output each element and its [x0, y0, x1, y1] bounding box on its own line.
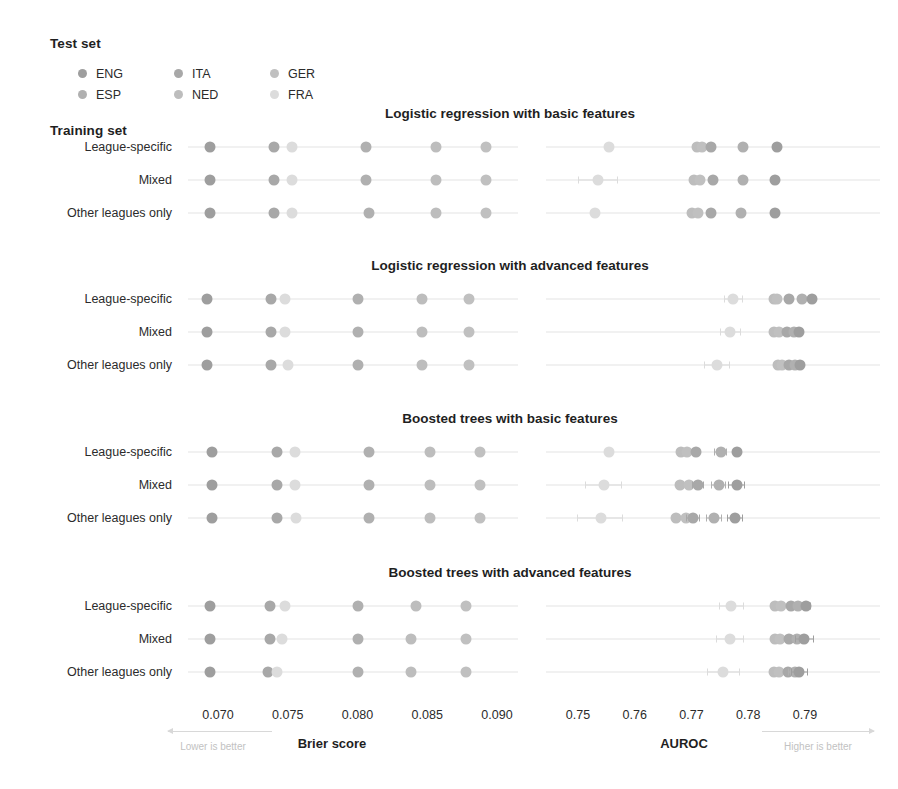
- brier-point-eng[interactable]: [201, 359, 212, 370]
- brier-point-ita[interactable]: [271, 512, 282, 523]
- brier-point-ita[interactable]: [268, 141, 279, 152]
- brier-point-esp[interactable]: [363, 479, 374, 490]
- brier-point-fra[interactable]: [286, 141, 297, 152]
- brier-point-ger[interactable]: [461, 666, 472, 677]
- legend-item-eng[interactable]: ENG: [78, 67, 174, 81]
- brier-point-ned[interactable]: [405, 666, 416, 677]
- auroc-point-esp[interactable]: [709, 512, 720, 523]
- brier-point-fra[interactable]: [279, 600, 290, 611]
- auroc-point-ita[interactable]: [687, 512, 698, 523]
- brier-point-ita[interactable]: [268, 174, 279, 185]
- brier-point-fra[interactable]: [291, 512, 302, 523]
- brier-point-esp[interactable]: [352, 326, 363, 337]
- legend-item-esp[interactable]: ESP: [78, 88, 174, 102]
- auroc-point-fra[interactable]: [604, 141, 615, 152]
- auroc-point-eng[interactable]: [770, 207, 781, 218]
- auroc-point-eng[interactable]: [795, 359, 806, 370]
- brier-point-esp[interactable]: [363, 512, 374, 523]
- auroc-point-ita[interactable]: [784, 293, 795, 304]
- auroc-point-fra[interactable]: [604, 446, 615, 457]
- brier-point-eng[interactable]: [207, 446, 218, 457]
- brier-point-ned[interactable]: [425, 512, 436, 523]
- brier-point-eng[interactable]: [201, 326, 212, 337]
- brier-point-fra[interactable]: [289, 446, 300, 457]
- auroc-point-eng[interactable]: [731, 446, 742, 457]
- brier-point-fra[interactable]: [289, 479, 300, 490]
- auroc-point-ita[interactable]: [708, 174, 719, 185]
- auroc-point-fra[interactable]: [590, 207, 601, 218]
- auroc-point-esp[interactable]: [716, 446, 727, 457]
- brier-point-ger[interactable]: [480, 141, 491, 152]
- brier-point-eng[interactable]: [204, 666, 215, 677]
- auroc-point-fra[interactable]: [718, 666, 729, 677]
- brier-point-esp[interactable]: [352, 666, 363, 677]
- brier-point-fra[interactable]: [279, 326, 290, 337]
- auroc-point-ita[interactable]: [706, 207, 717, 218]
- auroc-point-eng[interactable]: [794, 666, 805, 677]
- brier-point-ita[interactable]: [266, 359, 277, 370]
- brier-point-esp[interactable]: [360, 174, 371, 185]
- auroc-point-ita[interactable]: [693, 479, 704, 490]
- auroc-point-fra[interactable]: [727, 293, 738, 304]
- auroc-point-esp[interactable]: [737, 174, 748, 185]
- brier-point-ned[interactable]: [411, 600, 422, 611]
- brier-point-esp[interactable]: [363, 446, 374, 457]
- auroc-point-esp[interactable]: [713, 479, 724, 490]
- brier-point-fra[interactable]: [282, 359, 293, 370]
- auroc-point-fra[interactable]: [598, 479, 609, 490]
- brier-point-ita[interactable]: [266, 326, 277, 337]
- brier-point-eng[interactable]: [201, 293, 212, 304]
- brier-point-ned[interactable]: [425, 446, 436, 457]
- auroc-point-eng[interactable]: [794, 326, 805, 337]
- brier-point-eng[interactable]: [204, 174, 215, 185]
- brier-point-ned[interactable]: [430, 174, 441, 185]
- brier-point-eng[interactable]: [204, 633, 215, 644]
- brier-point-ned[interactable]: [416, 359, 427, 370]
- auroc-point-ger[interactable]: [693, 207, 704, 218]
- legend-item-ned[interactable]: NED: [174, 88, 270, 102]
- auroc-point-eng[interactable]: [798, 633, 809, 644]
- auroc-point-eng[interactable]: [806, 293, 817, 304]
- brier-point-ita[interactable]: [264, 633, 275, 644]
- brier-point-ita[interactable]: [271, 479, 282, 490]
- auroc-point-esp[interactable]: [736, 207, 747, 218]
- auroc-point-fra[interactable]: [725, 326, 736, 337]
- brier-point-esp[interactable]: [352, 600, 363, 611]
- brier-point-eng[interactable]: [207, 512, 218, 523]
- brier-point-esp[interactable]: [352, 359, 363, 370]
- brier-point-eng[interactable]: [204, 141, 215, 152]
- auroc-point-esp[interactable]: [737, 141, 748, 152]
- auroc-point-ita[interactable]: [691, 446, 702, 457]
- brier-point-esp[interactable]: [352, 293, 363, 304]
- auroc-point-fra[interactable]: [712, 359, 723, 370]
- auroc-point-eng[interactable]: [731, 479, 742, 490]
- brier-point-fra[interactable]: [277, 633, 288, 644]
- brier-point-ned[interactable]: [425, 479, 436, 490]
- brier-point-ger[interactable]: [461, 633, 472, 644]
- auroc-point-ger[interactable]: [771, 293, 782, 304]
- brier-point-ger[interactable]: [464, 359, 475, 370]
- auroc-point-eng[interactable]: [770, 174, 781, 185]
- brier-point-ned[interactable]: [405, 633, 416, 644]
- brier-point-ned[interactable]: [430, 141, 441, 152]
- brier-point-ger[interactable]: [464, 293, 475, 304]
- auroc-point-ger[interactable]: [695, 174, 706, 185]
- auroc-point-eng[interactable]: [729, 512, 740, 523]
- auroc-point-fra[interactable]: [726, 600, 737, 611]
- auroc-point-ita[interactable]: [706, 141, 717, 152]
- brier-point-ger[interactable]: [480, 174, 491, 185]
- brier-point-ger[interactable]: [480, 207, 491, 218]
- brier-point-esp[interactable]: [363, 207, 374, 218]
- brier-point-ned[interactable]: [416, 326, 427, 337]
- brier-point-ita[interactable]: [271, 446, 282, 457]
- auroc-point-eng[interactable]: [771, 141, 782, 152]
- brier-point-esp[interactable]: [352, 633, 363, 644]
- brier-point-ger[interactable]: [475, 479, 486, 490]
- brier-point-ita[interactable]: [264, 600, 275, 611]
- auroc-point-fra[interactable]: [595, 512, 606, 523]
- legend-item-fra[interactable]: FRA: [270, 88, 366, 102]
- legend-item-ita[interactable]: ITA: [174, 67, 270, 81]
- legend-item-ger[interactable]: GER: [270, 67, 366, 81]
- auroc-point-eng[interactable]: [801, 600, 812, 611]
- brier-point-fra[interactable]: [271, 666, 282, 677]
